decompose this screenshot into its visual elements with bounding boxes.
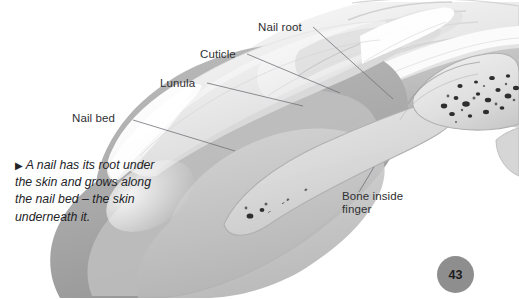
label-cuticle: Cuticle xyxy=(200,48,236,61)
diagram-page: Nail root Cuticle Lunula Nail bed Bone i… xyxy=(0,0,519,299)
fingertip-illustration xyxy=(0,0,519,299)
label-nail-bed: Nail bed xyxy=(72,112,115,125)
caption-arrow-icon: ▶ xyxy=(15,160,23,171)
label-bone-inside-finger: Bone inside finger xyxy=(342,190,416,216)
label-nail-root: Nail root xyxy=(258,21,302,34)
caption-text: A nail has its root under the skin and g… xyxy=(15,158,154,224)
page-number-value: 43 xyxy=(449,268,463,282)
adjacent-bone-fragment xyxy=(496,128,519,176)
caption-block: ▶A nail has its root under the skin and … xyxy=(15,157,157,226)
label-lunula: Lunula xyxy=(160,77,195,90)
page-number-badge: 43 xyxy=(437,256,474,293)
